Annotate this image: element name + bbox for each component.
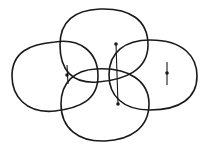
center-top-point <box>114 42 118 46</box>
bottom-curve <box>61 69 149 141</box>
left-curve <box>12 41 98 111</box>
center-bottom-point <box>116 102 120 106</box>
right-curve <box>109 40 197 110</box>
top-curve <box>60 9 148 82</box>
overlapping-curves-diagram <box>0 0 203 145</box>
left-mid-point <box>65 73 69 77</box>
right-mid-point <box>165 71 169 75</box>
